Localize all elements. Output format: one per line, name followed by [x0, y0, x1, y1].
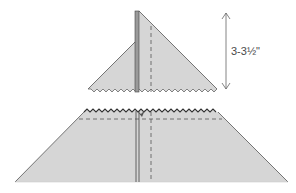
tree-pattern-diagram	[0, 0, 296, 193]
top-triangle-piece	[88, 11, 217, 92]
top-triangle-fill	[88, 11, 217, 92]
bottom-trapezoid-fill	[15, 109, 288, 182]
bottom-trapezoid-piece	[15, 109, 288, 182]
folded-seam-allowance	[135, 11, 139, 92]
measurement-arrow	[222, 13, 230, 89]
measurement-label: 3-3½"	[231, 45, 260, 57]
